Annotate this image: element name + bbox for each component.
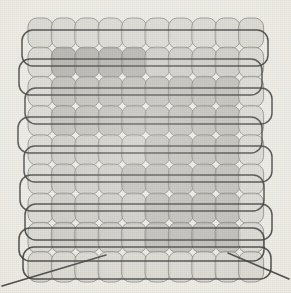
grid-cell [98, 76, 123, 106]
grid-cell [145, 135, 170, 165]
grid-cell [28, 106, 53, 136]
grid-cell [145, 18, 170, 48]
grid-cell [192, 18, 217, 48]
grid-cell [98, 47, 123, 77]
grid-cell [192, 106, 217, 136]
grid-cell [122, 106, 147, 136]
grid-cell [192, 193, 217, 223]
grid-cell [239, 164, 264, 194]
grid-cell [168, 164, 193, 194]
grid-cell [192, 222, 217, 252]
grid-cell [28, 76, 53, 106]
grid-cell [28, 135, 53, 165]
grid-cell [168, 18, 193, 48]
grid-cell [168, 47, 193, 77]
grid-cell [75, 18, 100, 48]
grid-cell [122, 18, 147, 48]
grid-cell [215, 135, 240, 165]
grid-cell [122, 164, 147, 194]
grid-cell [168, 252, 193, 282]
grid-cell [75, 135, 100, 165]
grid-cell [122, 76, 147, 106]
grid-cell [75, 252, 100, 282]
grid-cell [28, 222, 53, 252]
grid-cell [98, 106, 123, 136]
grid-cell [51, 164, 76, 194]
grid-cell [75, 164, 100, 194]
grid-cell [28, 164, 53, 194]
grid-cell [215, 76, 240, 106]
grid-cell [239, 222, 264, 252]
grid-cell [98, 222, 123, 252]
grid-cell [239, 18, 264, 48]
grid-cell [215, 164, 240, 194]
grid-cell [168, 193, 193, 223]
grid-cell [145, 252, 170, 282]
grid-cell [98, 18, 123, 48]
cell-grid-layer [28, 18, 264, 282]
grid-cell [51, 47, 76, 77]
grid-cell [98, 135, 123, 165]
grid-cell [192, 164, 217, 194]
grid-cell [215, 47, 240, 77]
grid-cell [51, 135, 76, 165]
grid-cell [28, 193, 53, 223]
grid-cell [51, 193, 76, 223]
grid-cell [122, 252, 147, 282]
artwork-svg [0, 0, 291, 293]
grid-cell [145, 164, 170, 194]
grid-cell [75, 222, 100, 252]
grid-cell [75, 106, 100, 136]
grid-cell [192, 252, 217, 282]
grid-cell [145, 47, 170, 77]
grid-cell [168, 222, 193, 252]
grid-cell [215, 18, 240, 48]
grid-cell [145, 193, 170, 223]
grid-cell [168, 76, 193, 106]
grid-cell [122, 222, 147, 252]
grid-cell [75, 193, 100, 223]
grid-cell [215, 106, 240, 136]
grid-cell [145, 222, 170, 252]
grid-cell [51, 222, 76, 252]
grid-cell [192, 135, 217, 165]
grid-cell [122, 47, 147, 77]
grid-cell [28, 47, 53, 77]
grid-cell [122, 193, 147, 223]
grid-cell [145, 106, 170, 136]
grid-cell [168, 106, 193, 136]
grid-cell [192, 76, 217, 106]
grid-cell [98, 193, 123, 223]
grid-cell [98, 164, 123, 194]
grid-cell [215, 193, 240, 223]
grid-cell [75, 47, 100, 77]
grid-cell [75, 76, 100, 106]
artwork-canvas [0, 0, 291, 293]
grid-cell [239, 135, 264, 165]
grid-cell [145, 76, 170, 106]
grid-cell [122, 135, 147, 165]
grid-cell [168, 135, 193, 165]
grid-cell [192, 47, 217, 77]
grid-cell [51, 18, 76, 48]
grid-cell [51, 106, 76, 136]
grid-cell [51, 76, 76, 106]
grid-cell [215, 222, 240, 252]
grid-cell [28, 18, 53, 48]
